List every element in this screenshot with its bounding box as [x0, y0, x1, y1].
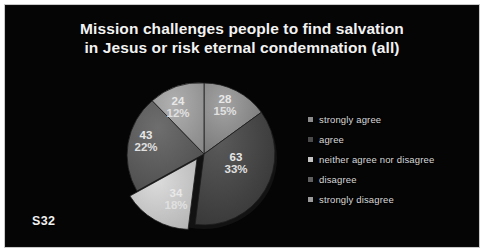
- legend-swatch-neither: [308, 157, 313, 162]
- pie-chart-svg: 28 15% 63 33% 34 18% 43 22% 24 12%: [114, 72, 304, 240]
- legend-label-strongly-agree: strongly agree: [319, 114, 381, 125]
- legend-item-neither-agree-nor-disagree[interactable]: neither agree nor disagree: [308, 150, 476, 169]
- pie-label-neither-percent: 18%: [164, 199, 187, 211]
- legend-item-strongly-agree[interactable]: strongly agree: [308, 110, 476, 129]
- pie-label-strongly-disagree-percent: 12%: [166, 107, 189, 119]
- pie-label-disagree-percent: 22%: [134, 141, 157, 153]
- slide-number-tag: S32: [32, 214, 55, 228]
- page-title: Mission challenges people to find salvat…: [6, 19, 478, 57]
- slide-canvas: Mission challenges people to find salvat…: [6, 6, 478, 246]
- pie-label-agree-value: 63: [230, 151, 243, 163]
- pie-label-disagree-value: 43: [140, 129, 153, 141]
- legend-label-disagree: disagree: [319, 174, 357, 185]
- legend-item-strongly-disagree[interactable]: strongly disagree: [308, 190, 476, 209]
- legend-swatch-disagree: [308, 177, 313, 182]
- page-title-line-2: in Jesus or risk eternal condemnation (a…: [6, 38, 478, 57]
- legend-swatch-agree: [308, 137, 313, 142]
- legend-label-agree: agree: [319, 134, 344, 145]
- legend-item-agree[interactable]: agree: [308, 130, 476, 149]
- slide-frame: Mission challenges people to find salvat…: [0, 0, 484, 252]
- chart-legend: strongly agree agree neither agree nor d…: [308, 110, 476, 210]
- legend-item-disagree[interactable]: disagree: [308, 170, 476, 189]
- pie-label-agree-percent: 33%: [224, 163, 247, 175]
- pie-chart: 28 15% 63 33% 34 18% 43 22% 24 12%: [114, 72, 304, 240]
- pie-label-strongly-agree-percent: 15%: [213, 105, 236, 117]
- legend-swatch-strongly-agree: [308, 117, 313, 122]
- pie-label-strongly-disagree-value: 24: [172, 95, 185, 107]
- page-title-line-1: Mission challenges people to find salvat…: [6, 19, 478, 38]
- legend-label-neither-agree-nor-disagree: neither agree nor disagree: [319, 154, 434, 165]
- legend-swatch-strongly-disagree: [308, 197, 313, 202]
- legend-label-strongly-disagree: strongly disagree: [319, 194, 394, 205]
- pie-label-strongly-agree-value: 28: [219, 93, 232, 105]
- pie-label-neither-value: 34: [170, 187, 183, 199]
